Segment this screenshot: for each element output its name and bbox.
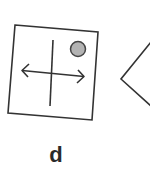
rotated-square-panel: [8, 25, 98, 120]
square-border: [8, 25, 98, 120]
gray-circle-icon: [71, 42, 86, 57]
double-arrow-icon: [22, 64, 84, 83]
figure-canvas: [0, 0, 150, 175]
figure-label: d: [44, 143, 68, 167]
partial-chevron-shape: [121, 42, 150, 106]
